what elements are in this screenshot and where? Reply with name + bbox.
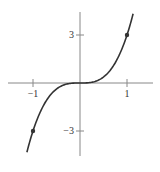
y-tick-label-3: 3 — [69, 29, 74, 40]
cubic-function-chart: −1 1 3 −3 — [0, 0, 160, 172]
y-tick-label-neg3: −3 — [63, 125, 74, 136]
x-tick-label-1: 1 — [125, 88, 130, 99]
point-neg1-neg3 — [31, 129, 35, 133]
x-tick-label-neg1: −1 — [28, 88, 39, 99]
point-1-3 — [125, 33, 129, 37]
